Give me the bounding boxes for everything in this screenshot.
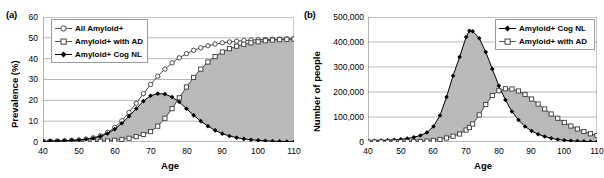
legend-label-all-amyloid: All Amyloid+ bbox=[75, 23, 123, 34]
x-tick-a-50: 50 bbox=[74, 146, 83, 156]
filled-diamond-icon bbox=[499, 23, 516, 34]
x-tick-a-60: 60 bbox=[110, 146, 119, 156]
x-tick-b-80: 80 bbox=[494, 146, 503, 156]
open-square-icon bbox=[499, 36, 516, 47]
x-tick-a-110: 110 bbox=[287, 146, 301, 156]
legend-label-amyloid-ad: Amyloid+ with AD bbox=[75, 36, 143, 47]
legend-item-b-amyloid-ad: Amyloid+ with AD bbox=[499, 35, 590, 48]
y-tick-b-400k: 400,000 bbox=[316, 37, 364, 47]
y-tick-a-30: 30 bbox=[16, 74, 38, 84]
chart-panel-a: (a) Prevalence (%) 0 10 20 30 40 50 60 4… bbox=[0, 0, 302, 178]
legend-item-b-amyloid-cognl: Amyloid+ Cog NL bbox=[499, 22, 590, 35]
y-tick-a-50: 50 bbox=[16, 33, 38, 43]
x-axis-label-a: Age bbox=[120, 160, 220, 171]
y-tick-a-20: 20 bbox=[16, 95, 38, 105]
figure-container: (a) Prevalence (%) 0 10 20 30 40 50 60 4… bbox=[0, 0, 604, 178]
x-tick-b-50: 50 bbox=[396, 146, 405, 156]
x-tick-b-40: 40 bbox=[363, 146, 372, 156]
open-circle-icon bbox=[55, 23, 72, 34]
legend-a: All Amyloid+ Amyloid+ with AD Amyloid+ C… bbox=[51, 19, 148, 63]
x-tick-b-110: 110 bbox=[590, 146, 604, 156]
chart-panel-b: (b) Number of people 0 100,000 200,000 3… bbox=[302, 0, 604, 178]
y-tick-b-300k: 300,000 bbox=[316, 62, 364, 72]
legend-item-all-amyloid: All Amyloid+ bbox=[55, 22, 143, 35]
y-tick-b-200k: 200,000 bbox=[316, 87, 364, 97]
legend-label-amyloid-cognl: Amyloid+ Cog NL bbox=[75, 49, 142, 60]
x-tick-b-100: 100 bbox=[557, 146, 571, 156]
y-tick-a-60: 60 bbox=[16, 12, 38, 22]
panel-label-b: (b) bbox=[304, 9, 316, 20]
legend-label-b-amyloid-cognl: Amyloid+ Cog NL bbox=[519, 23, 586, 34]
x-tick-b-90: 90 bbox=[526, 146, 535, 156]
y-tick-a-10: 10 bbox=[16, 116, 38, 126]
x-tick-a-80: 80 bbox=[182, 146, 191, 156]
x-tick-b-60: 60 bbox=[428, 146, 437, 156]
y-tick-b-100k: 100,000 bbox=[316, 112, 364, 122]
filled-diamond-icon bbox=[55, 49, 72, 60]
x-tick-a-40: 40 bbox=[38, 146, 47, 156]
x-tick-a-70: 70 bbox=[146, 146, 155, 156]
y-tick-b-0: 0 bbox=[316, 137, 364, 147]
x-axis-label-b: Age bbox=[433, 160, 533, 171]
open-square-icon bbox=[55, 36, 72, 47]
x-tick-a-100: 100 bbox=[251, 146, 265, 156]
y-tick-a-0: 0 bbox=[16, 137, 38, 147]
legend-item-amyloid-ad: Amyloid+ with AD bbox=[55, 35, 143, 48]
x-tick-b-70: 70 bbox=[461, 146, 470, 156]
x-tick-a-90: 90 bbox=[217, 146, 226, 156]
y-tick-b-500k: 500,000 bbox=[316, 12, 364, 22]
legend-label-b-amyloid-ad: Amyloid+ with AD bbox=[519, 36, 587, 47]
y-tick-a-40: 40 bbox=[16, 54, 38, 64]
legend-b: Amyloid+ Cog NL Amyloid+ with AD bbox=[495, 19, 595, 50]
legend-item-amyloid-cognl: Amyloid+ Cog NL bbox=[55, 48, 143, 61]
